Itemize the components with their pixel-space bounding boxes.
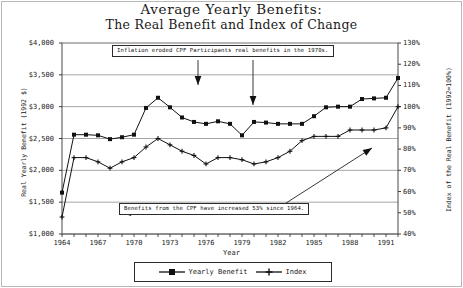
y-tick-right: 130% [403, 39, 437, 47]
series-yearly-benefit [60, 76, 400, 195]
y-tick-right: 120% [403, 60, 437, 68]
y-tick-left: $4,000 [8, 39, 54, 47]
page-title: Average Yearly Benefits: [0, 2, 463, 18]
legend-label-yearly-benefit: Yearly Benefit [188, 268, 247, 276]
plus-marker-icon [256, 267, 282, 277]
x-tick: 1976 [190, 239, 222, 247]
x-tick: 1991 [370, 239, 402, 247]
y-tick-right: 80% [403, 145, 437, 153]
y-tick-right: 110% [403, 81, 437, 89]
x-axis-label: Year [0, 249, 463, 257]
annotation-arrow-1979 [250, 60, 257, 105]
y-tick-right: 40% [403, 230, 437, 238]
annotation-increase: Benefits from the CPF have increased 53%… [119, 203, 309, 215]
y-tick-right: 50% [403, 209, 437, 217]
x-tick: 1988 [334, 239, 366, 247]
x-tick: 1973 [154, 239, 186, 247]
chart-title-block: Average Yearly Benefits: The Real Benefi… [0, 2, 463, 33]
annotation-inflation: Inflation eroded CPF Participants real b… [112, 45, 334, 57]
legend-label-index: Index [285, 268, 306, 276]
y-tick-left: $3,500 [8, 71, 54, 79]
square-marker-icon [159, 267, 185, 277]
chart-figure: Average Yearly Benefits: The Real Benefi… [0, 0, 463, 288]
y-tick-right: 90% [403, 124, 437, 132]
x-tick: 1967 [82, 239, 114, 247]
x-tick: 1964 [46, 239, 78, 247]
y-tick-left: $3,000 [8, 103, 54, 111]
legend-row: Yearly Benefit Index [135, 263, 331, 281]
y-tick-left: $1,000 [8, 230, 54, 238]
chart-legend: Yearly Benefit Index [134, 262, 332, 282]
y-tick-right: 100% [403, 103, 437, 111]
annotation-arrow-1972 [195, 60, 202, 85]
y-tick-right: 70% [403, 166, 437, 174]
y-tick-left: $2,000 [8, 166, 54, 174]
chart-subtitle: The Real Benefit and Index of Change [0, 18, 463, 33]
y-axis-label-right: Index of the Real Benefit (1992=100%) [445, 72, 453, 212]
y-tick-left: $1,500 [8, 198, 54, 206]
x-tick: 1970 [118, 239, 150, 247]
x-tick: 1979 [226, 239, 258, 247]
annotation-arrow-1992 [283, 148, 372, 205]
legend-item-index: Index [256, 267, 306, 277]
y-tick-left: $2,500 [8, 135, 54, 143]
x-tick: 1982 [262, 239, 294, 247]
legend-item-yearly-benefit: Yearly Benefit [159, 267, 247, 277]
y-tick-right: 60% [403, 188, 437, 196]
x-tick: 1985 [298, 239, 330, 247]
